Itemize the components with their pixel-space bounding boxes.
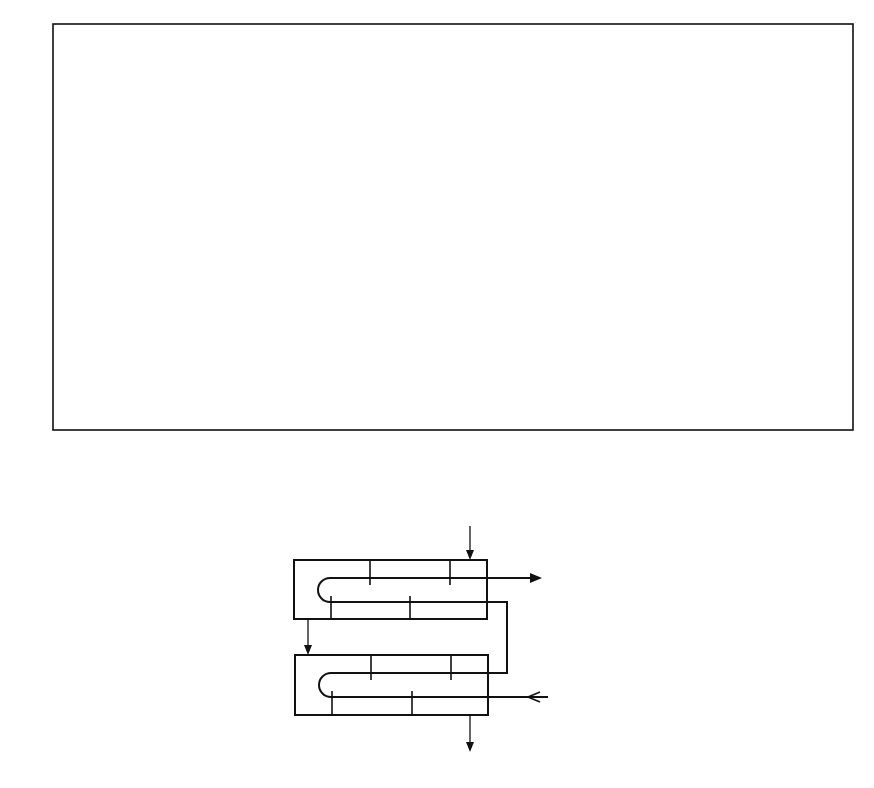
exchanger-schematic [294,526,548,752]
arrow-down-icon [466,550,474,560]
plot-frame [53,24,853,430]
arrow-right-icon [530,573,542,583]
shell-1 [294,560,487,619]
arrow-down-icon [466,742,474,752]
chart-figure [0,0,874,788]
tube-path-lower [319,673,548,697]
tube-path-upper [318,578,507,673]
shell-2 [295,655,488,715]
arrow-down-icon [304,645,312,655]
